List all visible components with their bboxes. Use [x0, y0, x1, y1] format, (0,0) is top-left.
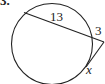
secant-internal-label: 13 — [50, 10, 63, 23]
secant-external-label: 3 — [95, 24, 102, 37]
secant-line — [24, 13, 104, 43]
tangent-label: x — [86, 63, 92, 76]
